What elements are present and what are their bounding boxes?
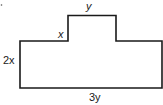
label-bottom-3y: 3y [89, 92, 101, 103]
label-step-x: x [58, 29, 64, 40]
stray-dot [1, 4, 3, 6]
composite-shape-path [20, 16, 162, 89]
shape-outline [0, 0, 163, 105]
label-left-2x: 2x [3, 55, 15, 66]
label-top-y: y [86, 1, 92, 12]
